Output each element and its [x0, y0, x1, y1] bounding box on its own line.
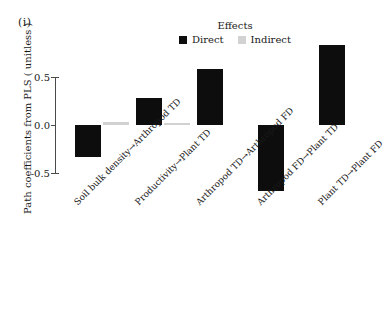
legend-entry-indirect: Indirect	[238, 34, 291, 45]
y-tick-mark	[51, 77, 55, 78]
y-tick-label: 0.5	[34, 72, 50, 83]
bar-indirect-1[interactable]	[164, 123, 190, 125]
legend: Effects Direct Indirect	[150, 20, 320, 45]
y-tick-label: 0.0	[34, 120, 50, 131]
figure-panel: (i) Effects Direct Indirect Path coeffic…	[0, 0, 385, 312]
bar-direct-0[interactable]	[75, 125, 101, 157]
legend-swatch-indirect-icon	[238, 36, 246, 44]
y-tick-mark	[51, 125, 55, 126]
y-axis-title: Path coefficients from PLS ( unitless )	[22, 14, 33, 214]
bar-direct-2[interactable]	[197, 69, 223, 125]
bar-direct-4[interactable]	[319, 45, 345, 125]
legend-title: Effects	[150, 20, 320, 31]
legend-label-indirect: Indirect	[251, 34, 291, 45]
y-tick-label: -0.5	[31, 168, 50, 179]
y-axis-line	[55, 77, 56, 173]
y-axis-cap	[55, 173, 59, 174]
y-tick-mark	[51, 173, 55, 174]
legend-items: Direct Indirect	[150, 34, 320, 45]
bar-indirect-0[interactable]	[103, 122, 129, 125]
legend-swatch-direct-icon	[179, 36, 187, 44]
legend-label-direct: Direct	[192, 34, 224, 45]
legend-entry-direct: Direct	[179, 34, 224, 45]
y-axis-cap	[55, 77, 59, 78]
